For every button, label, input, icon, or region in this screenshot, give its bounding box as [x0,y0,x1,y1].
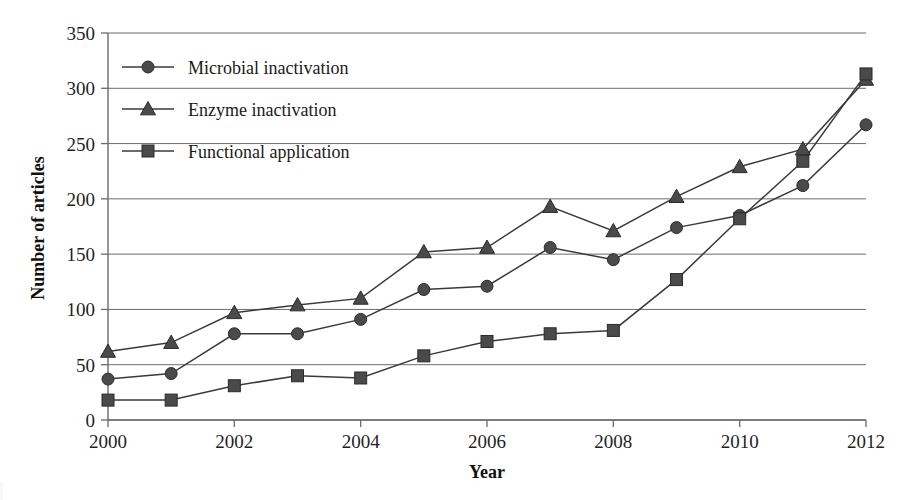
x-tick-marks [108,420,866,427]
chart-canvas: 050100150200250300350 200020022004200620… [0,0,921,500]
triangle-marker-icon-2008 [606,223,621,236]
y-tick-label-100: 100 [67,299,96,320]
line-chart-figure: 050100150200250300350 200020022004200620… [0,0,921,500]
triangle-marker-icon-2004 [353,291,368,304]
circle-marker-icon-2005 [418,284,430,296]
square-marker-icon-legend [142,145,154,157]
legend-label: Functional application [188,142,349,162]
legend-item-functional-application: Functional application [122,142,349,162]
circle-marker-icon-legend [142,61,154,73]
square-marker-icon-2011 [797,155,809,167]
triangle-marker-icon-2009 [669,189,684,202]
axes-group [108,33,866,420]
y-tick-label-50: 50 [76,355,95,376]
triangle-marker-icon-2001 [164,335,179,348]
square-marker-icon-2001 [165,394,177,406]
x-tick-label-2010: 2010 [721,431,759,452]
x-tick-labels: 2000200220042006200820102012 [89,431,885,452]
y-tick-label-250: 250 [67,134,96,155]
circle-marker-icon-2000 [102,373,114,385]
square-marker-icon-2008 [607,324,619,336]
triangle-marker-icon-legend [141,102,156,115]
square-marker-icon-2004 [355,372,367,384]
y-tick-label-0: 0 [86,410,96,431]
circle-marker-icon-2002 [228,328,240,340]
x-tick-label-2004: 2004 [342,431,381,452]
triangle-marker-icon-2007 [543,199,558,212]
series-polyline [108,74,866,400]
circle-marker-icon-2003 [292,328,304,340]
gridlines-group [108,33,866,420]
series-polyline [108,79,866,351]
circle-marker-icon-2007 [544,242,556,254]
square-marker-icon-2003 [292,370,304,382]
square-marker-icon-2005 [418,350,430,362]
circle-marker-icon-2009 [671,222,683,234]
x-tick-label-2006: 2006 [468,431,506,452]
circle-marker-icon-2012 [860,119,872,131]
y-tick-marks [101,33,108,420]
legend-item-enzyme-inactivation: Enzyme inactivation [122,100,336,120]
scan-artifact-band [0,482,921,500]
x-tick-label-2000: 2000 [89,431,127,452]
y-tick-label-300: 300 [67,78,96,99]
legend-item-microbial-inactivation: Microbial inactivation [122,58,348,78]
circle-marker-icon-2006 [481,280,493,292]
circle-marker-icon-2008 [607,254,619,266]
square-marker-icon-2006 [481,335,493,347]
circle-marker-icon-2001 [165,368,177,380]
x-tick-label-2002: 2002 [215,431,253,452]
square-marker-icon-2009 [671,274,683,286]
x-tick-label-2008: 2008 [594,431,632,452]
triangle-marker-icon-2006 [480,240,495,253]
x-axis-title: Year [469,462,505,482]
legend-label: Enzyme inactivation [188,100,336,120]
y-tick-label-350: 350 [67,23,96,44]
y-tick-label-150: 150 [67,244,96,265]
legend-label: Microbial inactivation [188,58,348,78]
square-marker-icon-2007 [544,328,556,340]
y-tick-labels: 050100150200250300350 [67,23,96,431]
square-marker-icon-2010 [734,213,746,225]
chart-legend: Microbial inactivationEnzyme inactivatio… [122,58,349,162]
circle-marker-icon-2011 [797,180,809,192]
square-marker-icon-2000 [102,394,114,406]
square-marker-icon-2002 [228,380,240,392]
circle-marker-icon-2004 [355,313,367,325]
y-axis-title: Number of articles [28,156,48,300]
x-tick-label-2012: 2012 [847,431,885,452]
square-marker-icon-2012 [860,68,872,80]
y-tick-label-200: 200 [67,189,96,210]
